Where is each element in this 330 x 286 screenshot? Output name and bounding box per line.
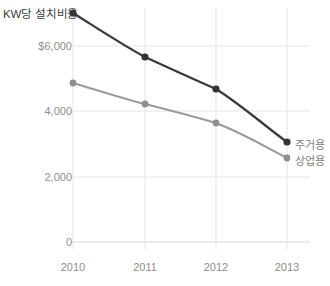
x-tick-label-2012: 2012 <box>186 261 246 273</box>
y-tick-label-2000: 2,000 <box>10 171 72 183</box>
y-tick-label-4000: 4,000 <box>10 105 72 117</box>
data-point-commercial-2013 <box>284 155 291 162</box>
line-chart: KW당 설치비용 $6,000 4,000 2,000 0 2010 2011 … <box>0 0 330 286</box>
data-point-commercial-2011 <box>142 101 149 108</box>
x-tick-label-2011: 2011 <box>115 261 175 273</box>
series-line-residential <box>73 13 287 142</box>
series-label-residential: 주거용 <box>295 136 324 152</box>
x-tick-label-2010: 2010 <box>43 261 103 273</box>
data-point-residential-2011 <box>141 53 148 60</box>
data-point-commercial-2012 <box>213 120 220 127</box>
y-tick-label-6000: $6,000 <box>10 40 72 52</box>
x-tick-label-2013: 2013 <box>257 261 317 273</box>
gridlines-horizontal <box>73 46 310 242</box>
y-tick-label-0: 0 <box>10 236 72 248</box>
series-label-commercial: 상업용 <box>295 152 324 168</box>
series-markers-residential <box>69 9 290 145</box>
data-point-residential-2013 <box>283 138 290 145</box>
gridlines-vertical <box>73 8 287 249</box>
y-axis-title: KW당 설치비용 <box>3 5 78 21</box>
series-line-commercial <box>73 83 287 158</box>
data-point-commercial-2010 <box>70 80 77 87</box>
data-point-residential-2012 <box>212 85 219 92</box>
